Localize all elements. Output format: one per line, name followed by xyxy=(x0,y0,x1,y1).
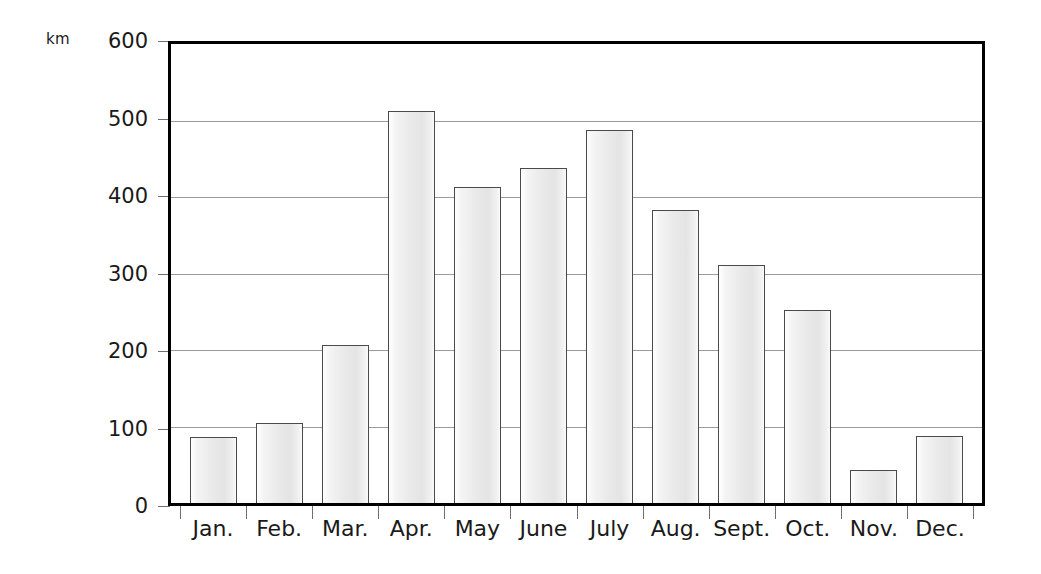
x-axis-label-feb: Feb. xyxy=(256,516,302,541)
x-axis-label-july: July xyxy=(590,516,630,541)
x-axis-label-mar: Mar. xyxy=(322,516,368,541)
x-tick-mark-1 xyxy=(246,506,247,519)
x-tick-mark-7 xyxy=(643,506,644,519)
x-tick-mark-9 xyxy=(775,506,776,519)
x-axis-label-sept: Sept. xyxy=(713,516,770,541)
bar-mar xyxy=(322,345,369,503)
bar-june xyxy=(520,168,567,503)
y-tick-label-600: 600 xyxy=(108,29,148,53)
y-tick-label-100: 100 xyxy=(108,417,148,441)
bar-oct xyxy=(784,310,831,503)
y-tick-label-0: 0 xyxy=(135,494,148,518)
bar-nov xyxy=(850,470,897,503)
bar-sept xyxy=(718,265,765,503)
x-axis-label-dec: Dec. xyxy=(915,516,965,541)
x-tick-mark-4 xyxy=(444,506,445,519)
y-tick-label-300: 300 xyxy=(108,262,148,286)
x-tick-mark-10 xyxy=(841,506,842,519)
bar-july xyxy=(586,130,633,503)
bar-aug xyxy=(652,210,699,503)
x-axis-label-aug: Aug. xyxy=(651,516,701,541)
x-tick-mark-3 xyxy=(378,506,379,519)
x-axis-label-may: May xyxy=(455,516,500,541)
y-tick-label-500: 500 xyxy=(108,107,148,131)
x-axis-label-nov: Nov. xyxy=(850,516,898,541)
bar-dec xyxy=(916,436,963,503)
x-axis-label-jan: Jan. xyxy=(193,516,234,541)
bar-apr xyxy=(388,111,435,503)
bars-layer xyxy=(171,44,982,503)
x-axis-label-oct: Oct. xyxy=(785,516,830,541)
y-axis-tick-labels: 0 100 200 300 400 500 600 xyxy=(80,41,148,506)
x-tick-mark-8 xyxy=(709,506,710,519)
x-tick-mark-2 xyxy=(312,506,313,519)
x-tick-mark-6 xyxy=(577,506,578,519)
x-axis-label-june: June xyxy=(519,516,567,541)
x-tick-mark-5 xyxy=(510,506,511,519)
y-tick-label-400: 400 xyxy=(108,184,148,208)
plot-area xyxy=(168,41,985,506)
bar-may xyxy=(454,187,501,503)
bar-feb xyxy=(256,423,303,503)
x-tick-mark-0 xyxy=(180,506,181,519)
bar-chart-figure: km 0 100 200 300 400 500 600 Jan.Feb.Mar… xyxy=(0,0,1041,574)
x-tick-mark-12 xyxy=(973,506,974,519)
y-axis-unit-label: km xyxy=(46,30,70,48)
x-tick-mark-11 xyxy=(907,506,908,519)
bar-jan xyxy=(190,437,237,503)
x-axis-label-apr: Apr. xyxy=(390,516,433,541)
y-tick-mark-0 xyxy=(158,506,170,507)
y-tick-label-200: 200 xyxy=(108,339,148,363)
